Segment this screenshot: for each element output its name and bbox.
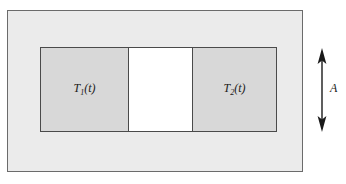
- bodies-row: T1(t) T2(t): [40, 47, 277, 132]
- body-block-right: T2(t): [192, 47, 277, 132]
- body-right-label: T2(t): [223, 81, 245, 97]
- separating-gap: [128, 47, 193, 132]
- body-block-left: T1(t): [40, 47, 129, 132]
- dimension-label-A: A: [330, 81, 337, 96]
- thermal-two-body-diagram: T1(t) T2(t) A: [0, 0, 346, 184]
- body-left-label: T1(t): [73, 81, 95, 97]
